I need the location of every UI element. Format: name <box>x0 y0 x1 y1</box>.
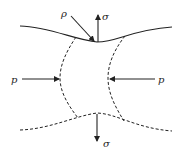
stress-diagram: ρ σ p p σ <box>0 0 181 152</box>
left-dashed-boundary <box>60 37 78 118</box>
p-right-label: p <box>158 74 165 85</box>
sigma-bottom-label: σ <box>103 138 111 149</box>
top-surface-curve <box>20 26 172 42</box>
sigma-top-label: σ <box>102 11 110 22</box>
p-left-label: p <box>11 74 18 85</box>
rho-label: ρ <box>60 8 67 19</box>
bottom-dashed-surface <box>20 113 172 131</box>
